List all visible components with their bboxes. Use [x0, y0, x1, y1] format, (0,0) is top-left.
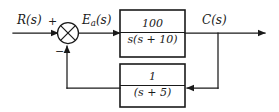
- summing-junction-minus-sign: −: [55, 46, 64, 57]
- forward-block-denominator: s(s + 10): [120, 32, 185, 47]
- forward-block-transfer-function: 100 s(s + 10): [120, 18, 185, 46]
- summing-junction-plus-sign: +: [48, 16, 57, 27]
- output-signal-label: C(s): [202, 14, 227, 26]
- block-diagram-canvas: R(s) + − Ea(s) 100 s(s + 10) C(s) 1 (s +…: [0, 0, 279, 112]
- error-signal-suffix: (s): [96, 13, 112, 27]
- forward-block-numerator: 100: [120, 18, 185, 32]
- input-signal-label: R(s): [17, 14, 42, 26]
- feedback-block-transfer-function: 1 (s + 5): [120, 71, 185, 99]
- error-signal-base: E: [82, 13, 91, 27]
- feedback-block-denominator: (s + 5): [120, 85, 185, 100]
- feedback-block-numerator: 1: [120, 71, 185, 85]
- error-signal-label: Ea(s): [82, 14, 111, 28]
